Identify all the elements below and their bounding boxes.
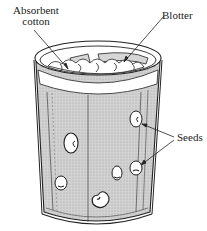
seed: [130, 161, 142, 175]
seeds-label: Seeds: [177, 132, 203, 143]
blotter-label: Blotter: [162, 10, 193, 21]
glass-illustration: [0, 0, 207, 231]
seed: [130, 111, 142, 127]
germination-diagram: Absorbent cotton Blotter Seeds: [0, 0, 207, 231]
seed: [55, 176, 67, 190]
seed: [64, 133, 78, 153]
seed: [112, 166, 122, 180]
absorbent-label-line2: cotton: [8, 16, 64, 27]
absorbent-cotton-label: Absorbent cotton: [8, 5, 64, 27]
